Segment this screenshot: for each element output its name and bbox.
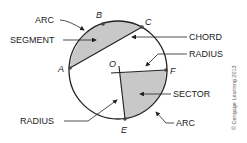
circle-diagram: ARC SEGMENT CHORD RADIUS SECTOR RADIUS A… (0, 0, 247, 143)
label-chord: CHORD (189, 32, 222, 42)
label-radius-right: RADIUS (189, 49, 223, 59)
label-arc-top: ARC (35, 15, 55, 25)
letter-a: A (57, 64, 64, 74)
arc-bottom-leader (156, 112, 174, 123)
letter-o: O (109, 59, 116, 69)
letter-b: B (96, 10, 102, 20)
point-b (101, 22, 105, 26)
point-e (123, 117, 127, 121)
letter-e: E (121, 125, 128, 135)
letter-f: F (170, 66, 176, 76)
label-arc-bottom: ARC (176, 118, 196, 128)
label-segment: SEGMENT (10, 35, 55, 45)
point-f (164, 68, 168, 72)
letter-c: C (145, 17, 152, 27)
sector-region (119, 70, 166, 119)
copyright-credit: © Cengage Learning 2013 (231, 65, 237, 130)
point-a (68, 66, 72, 70)
arc-top-leader (60, 20, 84, 30)
label-sector: SECTOR (173, 89, 211, 99)
point-c (140, 25, 144, 29)
label-radius-left: RADIUS (20, 116, 54, 126)
